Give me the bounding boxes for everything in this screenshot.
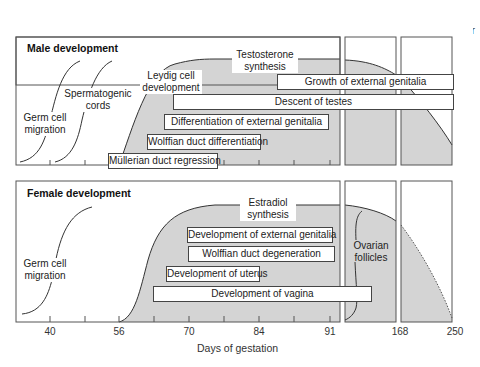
male-germ-cell-line2: migration: [20, 124, 70, 136]
bar-development-of-vagina: Development of vagina: [153, 286, 372, 302]
male-panel-title: Male development: [27, 42, 118, 54]
leydig-line2: development: [140, 82, 202, 94]
female-germ-cell-line2: migration: [20, 270, 70, 282]
testosterone-line2: synthesis: [232, 61, 298, 73]
ovarian-follicles-label: Ovarian follicles: [346, 240, 396, 264]
tick-70: 70: [174, 326, 204, 337]
follicles-line2: follicles: [346, 252, 396, 264]
estradiol-line2: synthesis: [240, 209, 296, 221]
male-germ-cell-line1: Germ cell: [20, 112, 70, 124]
tick-168: 168: [385, 326, 415, 337]
leydig-line1: Leydig cell: [140, 70, 202, 82]
tick-84: 84: [244, 326, 274, 337]
bar-differentiation-external-genitalia: Differentiation of external genitalia: [164, 114, 329, 130]
spermatogenic-cords-label: Spermatogenic cords: [62, 88, 134, 112]
female-germ-cell-label: Germ cell migration: [20, 258, 70, 282]
bar-development-of-uterus: Development of uterus: [166, 266, 260, 282]
female-germ-cell-line1: Germ cell: [20, 258, 70, 270]
testosterone-line1: Testosterone: [232, 49, 298, 61]
bar-wolffian-duct-degeneration: Wolffian duct degeneration: [188, 246, 335, 262]
tick-250: 250: [440, 326, 470, 337]
bar-mullerian-duct-regression: Müllerian duct regression: [108, 153, 218, 169]
spermatogenic-line1: Spermatogenic: [62, 88, 134, 100]
estradiol-line1: Estradiol: [240, 197, 296, 209]
testosterone-synthesis-label: Testosterone synthesis: [232, 49, 298, 73]
tick-91: 91: [315, 326, 345, 337]
tick-40: 40: [35, 326, 65, 337]
female-panel-title: Female development: [27, 187, 131, 199]
follicles-line1: Ovarian: [346, 240, 396, 252]
spermatogenic-line2: cords: [62, 100, 134, 112]
estradiol-synthesis-label: Estradiol synthesis: [240, 197, 296, 221]
bar-development-external-genitalia: Development of external genitalia: [187, 227, 333, 243]
bar-growth-external-genitalia: Growth of external genitalia: [277, 74, 454, 90]
bar-descent-of-testes: Descent of testes: [173, 94, 454, 110]
leydig-cell-label: Leydig cell development: [140, 70, 202, 94]
x-axis-title: Days of gestation: [197, 342, 278, 354]
bar-wolffian-duct-differentiation: Wolffian duct differentiation: [147, 134, 261, 150]
tick-56: 56: [104, 326, 134, 337]
male-germ-cell-label: Germ cell migration: [20, 112, 70, 136]
